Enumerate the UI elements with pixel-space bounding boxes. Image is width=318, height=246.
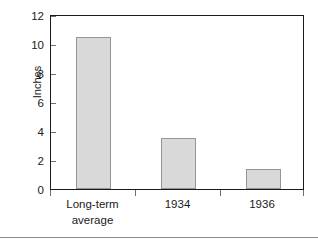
y-axis-tick-mark-12 xyxy=(51,16,56,17)
y-axis-tick-mark-10 xyxy=(51,45,56,46)
x-label-long-term-average-line2: average xyxy=(50,212,135,228)
bar-1936 xyxy=(246,169,281,189)
y-tick-10: 10 xyxy=(22,39,44,51)
y-tick-8: 8 xyxy=(22,68,44,80)
y-tick-label-4: 4 xyxy=(22,126,44,138)
y-axis-tick-mark-8 xyxy=(51,74,56,75)
x-label-1934: 1934 xyxy=(135,196,220,212)
x-label-long-term-average: Long-term average xyxy=(50,196,135,228)
y-tick-label-0: 0 xyxy=(22,184,44,196)
y-axis-tick-mark-2 xyxy=(51,161,56,162)
y-tick-2: 2 xyxy=(22,155,44,167)
y-tick-4: 4 xyxy=(22,126,44,138)
x-label-long-term-average-line1: Long-term xyxy=(50,196,135,212)
y-axis-tick-mark-4 xyxy=(51,132,56,133)
x-label-1936: 1936 xyxy=(220,196,304,212)
y-tick-0: 0 xyxy=(22,184,44,196)
plot-area xyxy=(50,15,304,190)
bar-1934 xyxy=(161,138,196,189)
x-label-1934-line1: 1934 xyxy=(135,196,220,212)
bottom-divider xyxy=(0,237,318,238)
y-tick-label-10: 10 xyxy=(22,39,44,51)
y-axis-tick-mark-6 xyxy=(51,103,56,104)
x-label-1936-line1: 1936 xyxy=(220,196,304,212)
y-tick-label-2: 2 xyxy=(22,155,44,167)
bar-chart: Inches 12 10 8 6 4 2 0 Long-term a xyxy=(0,0,318,246)
y-tick-12: 12 xyxy=(22,10,44,22)
y-tick-label-12: 12 xyxy=(22,10,44,22)
bar-long-term-average xyxy=(76,37,111,189)
y-tick-label-6: 6 xyxy=(22,97,44,109)
y-tick-label-8: 8 xyxy=(22,68,44,80)
y-tick-6: 6 xyxy=(22,97,44,109)
